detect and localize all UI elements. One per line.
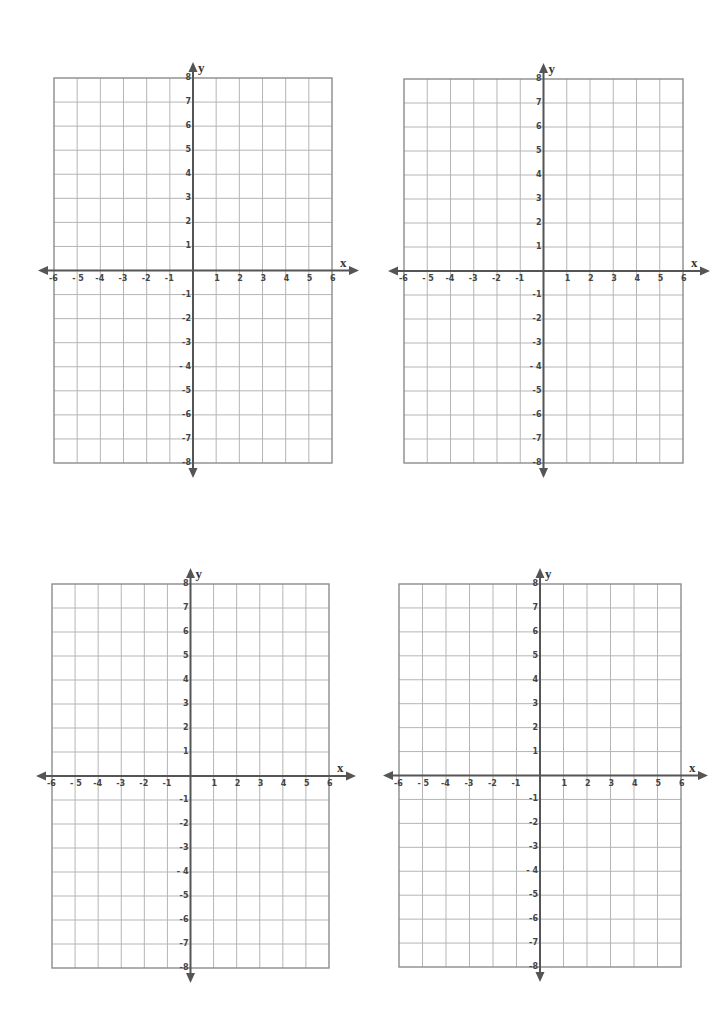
arrow-left-icon [36, 772, 46, 781]
y-tick-label: -7 [182, 435, 191, 443]
x-tick-label: 6 [679, 780, 685, 788]
grid-svg [52, 584, 329, 968]
x-tick-label: -3 [119, 275, 128, 283]
x-tick-label: -1 [162, 780, 171, 788]
y-tick-label: - 4 [530, 363, 542, 371]
y-tick-label: 3 [536, 195, 542, 203]
coordinate-plane-4: -6- 5-4-3-2-112345687654321-1-2-3- 4-5-6… [399, 584, 681, 967]
y-tick-label: 1 [536, 243, 542, 251]
y-tick-label: 3 [532, 700, 538, 708]
y-tick-label: -5 [533, 387, 542, 395]
x-tick-label: 4 [284, 275, 290, 283]
y-tick-label: -2 [180, 820, 189, 828]
y-tick-label: -7 [533, 435, 542, 443]
y-tick-label: -7 [180, 940, 189, 948]
y-tick-label: -8 [529, 963, 538, 971]
y-tick-label: -2 [182, 315, 191, 323]
x-tick-label: -2 [488, 780, 497, 788]
x-tick-label: 1 [214, 275, 220, 283]
y-tick-label: 1 [183, 748, 189, 756]
y-tick-label: 8 [183, 580, 189, 588]
arrow-left-icon [383, 771, 393, 780]
x-tick-label: 4 [635, 275, 641, 283]
arrow-right-icon [698, 771, 708, 780]
x-tick-label: 3 [611, 275, 617, 283]
y-tick-label: 6 [185, 122, 191, 130]
y-tick-label: -8 [533, 459, 542, 467]
y-tick-label: -6 [529, 915, 538, 923]
y-tick-label: 6 [532, 628, 538, 636]
y-tick-label: 1 [532, 748, 538, 756]
x-tick-label: 1 [212, 780, 218, 788]
y-tick-label: -3 [182, 339, 191, 347]
x-tick-label: -2 [139, 780, 148, 788]
y-tick-label: -2 [533, 315, 542, 323]
x-tick-label: -1 [515, 275, 524, 283]
y-tick-label: -8 [180, 964, 189, 972]
x-tick-label: 6 [330, 275, 336, 283]
y-tick-label: 8 [536, 75, 542, 83]
y-tick-label: - 4 [179, 363, 191, 371]
y-tick-label: 3 [185, 194, 191, 202]
arrow-down-icon [186, 973, 195, 983]
y-tick-label: 5 [185, 146, 191, 154]
x-tick-label: 5 [304, 780, 310, 788]
y-tick-label: -6 [180, 916, 189, 924]
y-tick-label: -1 [180, 796, 189, 804]
y-tick-label: 5 [532, 652, 538, 660]
arrow-down-icon [536, 972, 545, 982]
y-tick-label: -1 [182, 291, 191, 299]
y-tick-label: -6 [533, 411, 542, 419]
y-tick-label: - 4 [177, 868, 189, 876]
x-tick-label: 3 [609, 780, 615, 788]
x-tick-label: -3 [469, 275, 478, 283]
coordinate-plane-2: -6- 5-4-3-2-112345687654321-1-2-3- 4-5-6… [404, 79, 683, 463]
y-tick-label: 7 [532, 604, 538, 612]
y-tick-label: -1 [533, 291, 542, 299]
arrow-up-icon [189, 62, 198, 72]
x-tick-label: - 5 [72, 275, 84, 283]
x-tick-label: 5 [658, 275, 664, 283]
arrow-right-icon [346, 772, 356, 781]
y-tick-label: 1 [185, 242, 191, 250]
grid-svg [404, 79, 683, 463]
y-tick-label: -3 [529, 843, 538, 851]
x-tick-label: 5 [656, 780, 662, 788]
x-tick-label: 1 [562, 780, 568, 788]
y-tick-label: 6 [183, 628, 189, 636]
x-tick-label: 3 [258, 780, 264, 788]
x-axis-label: x [689, 761, 696, 774]
y-tick-label: 3 [183, 700, 189, 708]
y-tick-label: 2 [185, 218, 191, 226]
y-tick-label: -2 [529, 819, 538, 827]
x-tick-label: 2 [235, 780, 241, 788]
x-tick-label: -6 [47, 780, 56, 788]
y-tick-label: - 4 [526, 867, 538, 875]
y-tick-label: -8 [182, 459, 191, 467]
y-tick-label: 7 [536, 99, 542, 107]
arrow-down-icon [539, 468, 548, 478]
y-tick-label: 5 [536, 147, 542, 155]
grid-svg [54, 78, 332, 463]
arrow-down-icon [189, 468, 198, 478]
y-tick-label: 4 [183, 676, 189, 684]
y-tick-label: 2 [532, 724, 538, 732]
x-tick-label: 1 [565, 275, 571, 283]
x-tick-label: -4 [446, 275, 455, 283]
x-tick-label: 4 [632, 780, 638, 788]
x-tick-label: 3 [261, 275, 267, 283]
x-axis-label: x [340, 256, 347, 269]
y-axis-label: y [545, 567, 552, 580]
x-tick-label: -4 [441, 780, 450, 788]
y-tick-label: -5 [529, 891, 538, 899]
x-tick-label: -3 [465, 780, 474, 788]
x-axis-label: x [691, 256, 698, 269]
arrow-right-icon [700, 267, 710, 276]
y-tick-label: 8 [532, 580, 538, 588]
arrow-left-icon [388, 267, 398, 276]
y-tick-label: -3 [533, 339, 542, 347]
grid-svg [399, 584, 681, 967]
x-tick-label: -1 [512, 780, 521, 788]
coordinate-plane-3: -6- 5-4-3-2-112345687654321-1-2-3- 4-5-6… [52, 584, 329, 968]
x-tick-label: 2 [585, 780, 591, 788]
